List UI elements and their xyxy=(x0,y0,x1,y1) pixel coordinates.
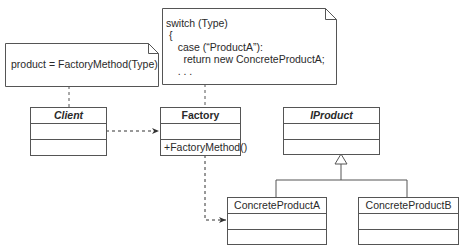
factory-class-name: Factory xyxy=(161,108,240,124)
concrete-product-a-name: ConcreteProductA xyxy=(228,198,326,214)
concrete-product-b-name: ConcreteProductB xyxy=(359,198,458,214)
concrete-product-a-class[interactable]: ConcreteProductA xyxy=(227,197,327,245)
factory-concretea-dependency xyxy=(205,155,226,220)
factory-note: switch (Type) { case (“ProductA”): retur… xyxy=(162,8,337,85)
client-note-text: product = FactoryMethod(Type) xyxy=(11,58,158,70)
factory-note-line-2: { xyxy=(166,29,172,41)
factory-attributes xyxy=(161,124,240,140)
factory-operations: +FactoryMethod() xyxy=(161,140,240,156)
client-attributes xyxy=(31,124,106,140)
realization-triangle-icon xyxy=(335,154,347,164)
iproduct-interface[interactable]: IProduct xyxy=(283,107,380,155)
concrete-product-b-operations xyxy=(359,230,458,245)
factory-class[interactable]: Factory +FactoryMethod() xyxy=(160,107,241,156)
realization-connector xyxy=(276,180,407,197)
concrete-product-a-operations xyxy=(228,230,326,245)
factory-note-line-5: . . . xyxy=(166,65,192,77)
client-operations xyxy=(31,140,106,156)
factory-note-line-1: switch (Type) xyxy=(166,17,228,29)
iproduct-attributes xyxy=(284,124,379,140)
concrete-product-a-attributes xyxy=(228,214,326,230)
client-note: product = FactoryMethod(Type) xyxy=(5,43,159,87)
iproduct-operations xyxy=(284,140,379,155)
factory-note-line-3: case (“ProductA”): xyxy=(166,41,263,53)
concrete-product-b-attributes xyxy=(359,214,458,230)
concrete-product-b-class[interactable]: ConcreteProductB xyxy=(358,197,459,245)
iproduct-class-name: IProduct xyxy=(284,108,379,124)
client-class[interactable]: Client xyxy=(30,107,107,156)
client-class-name: Client xyxy=(31,108,106,124)
factory-note-line-4: return new ConcreteProductA; xyxy=(166,53,325,65)
